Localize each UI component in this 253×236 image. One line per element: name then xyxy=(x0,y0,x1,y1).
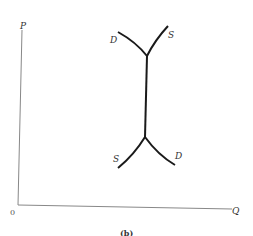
y-axis-label: P xyxy=(19,21,27,31)
origin-label: 0 xyxy=(10,208,15,217)
upper-supply-label: S xyxy=(168,30,174,40)
x-axis xyxy=(18,205,232,209)
x-axis-label: Q xyxy=(232,206,240,216)
lower-demand-label: D xyxy=(174,151,182,161)
supply-demand-diagram: P Q 0 D S S D (b) xyxy=(0,0,253,236)
vertical-segment xyxy=(145,56,147,137)
lower-demand-curve xyxy=(145,137,175,165)
y-axis xyxy=(18,30,22,205)
upper-demand-label: D xyxy=(109,35,117,45)
figure-caption: (b) xyxy=(120,228,133,236)
lower-supply-curve xyxy=(118,137,145,168)
upper-supply-curve xyxy=(147,26,168,56)
upper-demand-curve xyxy=(118,32,147,56)
lower-supply-label: S xyxy=(113,154,119,164)
